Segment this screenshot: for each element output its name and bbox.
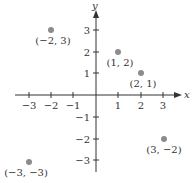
y-tick-label: −1 [75,112,90,123]
x-tick-label: 2 [138,100,144,111]
x-tick-label: −1 [66,100,81,111]
x-tick-label: 1 [115,100,121,111]
x-tick-labels: −3 −2 −1 1 2 3 [22,100,167,111]
x-tick-label: 3 [160,100,166,111]
x-axis-arrow-icon [174,92,182,98]
point-label: (−3, −3) [4,167,48,178]
point-label: (−2, 3) [35,35,70,46]
point-label: (1, 2) [107,57,134,68]
y-tick-label: −2 [75,134,90,145]
y-tick-label: 1 [84,68,90,79]
point-marker [48,27,54,33]
point-marker [115,49,121,55]
y-tick-label: 2 [84,47,90,58]
point-label: (3, −2) [146,144,181,155]
x-tick-label: −2 [44,100,59,111]
y-axis-arrow-icon [93,10,99,18]
y-tick-label: −3 [75,155,90,166]
point-marker [138,70,144,76]
point-marker [26,159,32,165]
point-label: (2, 1) [130,78,157,89]
x-axis-label: x [184,89,190,100]
x-tick-label: −3 [22,100,37,111]
y-tick-label: 3 [84,25,90,36]
coordinate-plane: x y −3 −2 −1 1 2 3 3 2 1 −1 −2 −3 [0,0,192,183]
point-marker [161,136,167,142]
y-axis-label: y [91,0,98,11]
